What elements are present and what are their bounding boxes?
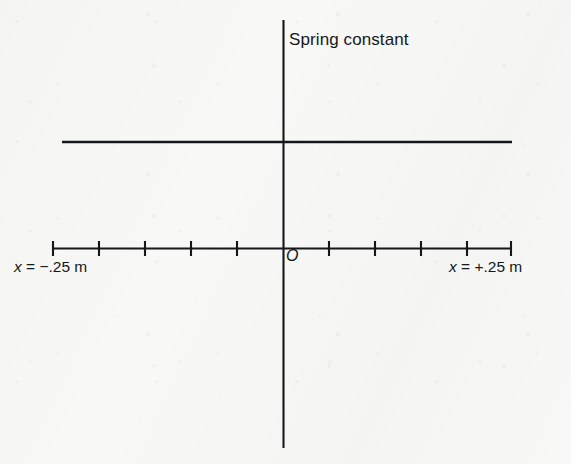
origin-label: O xyxy=(286,248,298,264)
graph-canvas xyxy=(0,0,571,464)
x-left-value: = −.25 m xyxy=(22,258,87,275)
x-axis-right-label: x = +.25 m xyxy=(449,259,522,275)
chart-title: Spring constant xyxy=(289,31,409,48)
spring-constant-figure: Spring constant O x = −.25 m x = +.25 m xyxy=(0,0,571,464)
x-variable-symbol: x xyxy=(14,258,22,275)
x-right-value: = +.25 m xyxy=(457,258,522,275)
x-axis-left-label: x = −.25 m xyxy=(14,259,87,275)
x-variable-symbol: x xyxy=(449,258,457,275)
